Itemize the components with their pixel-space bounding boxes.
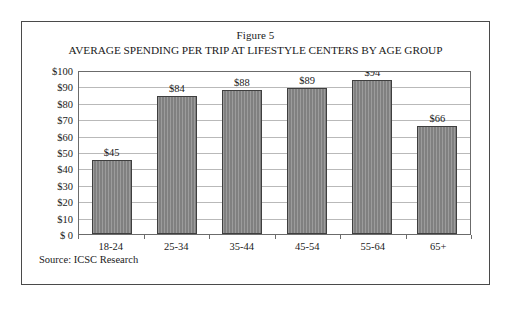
bar[interactable]: $45: [92, 160, 132, 234]
x-axis-tick: [275, 235, 276, 239]
y-axis-tick-label: $80: [57, 98, 73, 109]
chart-plot-wrapper: $45$84$88$89$94$66 $100$90$80$70$60$50$4…: [78, 71, 471, 235]
y-axis-tick-label: $60: [57, 131, 73, 142]
bar[interactable]: $94: [352, 80, 392, 234]
bar-slot: $45: [79, 72, 144, 234]
bars-group: $45$84$88$89$94$66: [79, 72, 470, 234]
x-axis-tick: [209, 235, 210, 239]
y-axis-tick-label: $90: [57, 82, 73, 93]
x-axis-tick: [406, 235, 407, 239]
x-axis-category-label: 45-54: [275, 240, 341, 253]
y-axis-tick-label: $10: [57, 213, 73, 224]
bar-slot: $66: [405, 72, 470, 234]
chart-title: AVERAGE SPENDING PER TRIP AT LIFESTYLE C…: [22, 43, 489, 57]
bar-slot: $88: [209, 72, 274, 234]
x-axis-category-label: 65+: [406, 240, 472, 253]
y-axis-tick-label: $20: [57, 197, 73, 208]
x-axis-category-label: 25-34: [144, 240, 210, 253]
bar[interactable]: $66: [417, 126, 457, 234]
bar-slot: $94: [340, 72, 405, 234]
y-axis-tick-label: $50: [57, 148, 73, 159]
bar[interactable]: $88: [222, 90, 262, 234]
bar-value-label: $89: [299, 75, 315, 87]
x-axis-tick: [78, 235, 79, 239]
y-axis-tick-label: $40: [57, 164, 73, 175]
x-axis-tick: [340, 235, 341, 239]
bar-value-label: $66: [430, 113, 446, 125]
figure-frame: Figure 5 AVERAGE SPENDING PER TRIP AT LI…: [21, 21, 490, 285]
x-axis-tick: [144, 235, 145, 239]
bar-slot: $89: [275, 72, 340, 234]
chart-plot-area: $45$84$88$89$94$66: [78, 71, 471, 235]
x-axis-category-label: 18-24: [78, 240, 144, 253]
y-axis-tick-label: $ 0: [60, 230, 73, 241]
bar-value-label: $84: [169, 83, 185, 95]
x-axis-tick: [471, 235, 472, 239]
x-axis-category-labels: 18-2425-3435-4445-5455-6465+: [78, 240, 471, 253]
bar-value-label: $45: [104, 147, 120, 159]
source-note: Source: ICSC Research: [39, 253, 138, 266]
bar-slot: $84: [144, 72, 209, 234]
x-axis-category-label: 55-64: [340, 240, 406, 253]
y-axis-tick-label: $30: [57, 180, 73, 191]
y-axis-tick-label: $70: [57, 115, 73, 126]
bar[interactable]: $84: [157, 96, 197, 234]
figure-caption: Figure 5: [22, 29, 489, 42]
bar-value-label: $88: [234, 77, 250, 89]
x-axis-category-label: 35-44: [209, 240, 275, 253]
y-axis-tick-label: $100: [52, 66, 73, 77]
bar-value-label: $94: [364, 71, 380, 79]
bar[interactable]: $89: [287, 88, 327, 234]
